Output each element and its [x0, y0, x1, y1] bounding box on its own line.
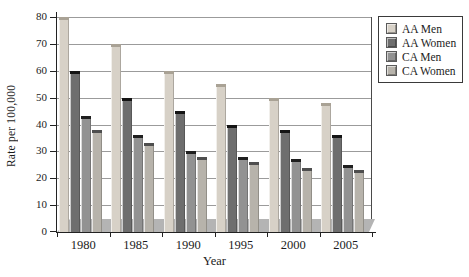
- y-tick: [50, 98, 57, 99]
- bar-aa-men: [321, 103, 331, 232]
- x-tick-label: 1985: [110, 238, 163, 253]
- bar-aa-women: [70, 71, 80, 232]
- bar-aa-men: [269, 98, 279, 232]
- legend-swatch: [386, 51, 397, 62]
- y-tick-label: 80: [21, 10, 47, 23]
- x-tick-label: 2000: [267, 238, 320, 253]
- bar-ca-women: [197, 157, 207, 232]
- bar-group: [321, 17, 364, 232]
- bar-top-face: [321, 103, 331, 106]
- legend-item: CA Men: [386, 50, 458, 63]
- bar-ca-women: [302, 168, 312, 233]
- y-tick: [50, 125, 57, 126]
- bar-aa-women: [122, 98, 132, 232]
- y-tick-label: 30: [21, 144, 47, 157]
- bar-top-face: [164, 71, 174, 74]
- bar-top-face: [291, 159, 301, 162]
- bar-group: [269, 17, 312, 232]
- legend-label: AA Men: [402, 23, 442, 35]
- bar-top-face: [343, 165, 353, 168]
- y-tick: [50, 71, 57, 72]
- bar-group: [216, 17, 259, 232]
- bar-top-face: [354, 170, 364, 173]
- y-tick: [50, 178, 57, 179]
- x-tick: [162, 232, 163, 237]
- y-tick: [50, 44, 57, 45]
- bar-top-face: [197, 157, 207, 160]
- y-tick: [50, 17, 57, 18]
- bar-top-face: [175, 111, 185, 114]
- bar-aa-women: [280, 130, 290, 232]
- bar-ca-men: [81, 116, 91, 232]
- legend-item: AA Women: [386, 36, 458, 49]
- bar-aa-women: [332, 135, 342, 232]
- y-tick-label: 20: [21, 171, 47, 184]
- y-tick: [50, 151, 57, 152]
- bar-aa-men: [59, 17, 69, 232]
- bar-aa-men: [164, 71, 174, 232]
- y-tick-label: 50: [21, 91, 47, 104]
- bar-ca-men: [291, 159, 301, 232]
- bar-top-face: [81, 116, 91, 119]
- legend-label: CA Men: [402, 51, 441, 63]
- x-tick: [267, 232, 268, 237]
- y-tick: [50, 205, 57, 206]
- y-tick-label: 70: [21, 37, 47, 50]
- bar-group: [164, 17, 207, 232]
- legend-item: AA Men: [386, 22, 458, 35]
- x-tick-label: 1990: [162, 238, 215, 253]
- chart-figure: Rate per 100,000 01020304050607080198019…: [0, 0, 469, 277]
- legend-swatch: [386, 65, 397, 76]
- plot-area: 0102030405060708019801985199019952000200…: [57, 17, 372, 232]
- bar-aa-women: [175, 111, 185, 232]
- bar-top-face: [59, 17, 69, 20]
- bar-top-face: [216, 84, 226, 87]
- bar-top-face: [238, 157, 248, 160]
- y-tick: [50, 231, 57, 232]
- bar-ca-women: [92, 130, 102, 232]
- bar-top-face: [92, 130, 102, 133]
- x-tick: [57, 232, 58, 237]
- bar-top-face: [70, 71, 80, 74]
- bar-ca-men: [186, 151, 196, 232]
- bar-top-face: [144, 143, 154, 146]
- x-tick-label: 2005: [320, 238, 373, 253]
- bar-top-face: [186, 151, 196, 154]
- bar-top-face: [122, 98, 132, 101]
- bar-aa-men: [216, 84, 226, 232]
- bar-top-face: [269, 98, 279, 101]
- bar-top-face: [133, 135, 143, 138]
- x-axis-title: Year: [57, 254, 372, 269]
- y-tick-label: 10: [21, 198, 47, 211]
- bar-aa-men: [111, 44, 121, 232]
- bar-top-face: [227, 125, 237, 128]
- y-tick-label: 40: [21, 118, 47, 131]
- bar-ca-women: [249, 162, 259, 232]
- bar-aa-women: [227, 125, 237, 233]
- legend-label: AA Women: [402, 37, 456, 49]
- bar-top-face: [111, 44, 121, 47]
- bar-group: [59, 17, 102, 232]
- x-tick: [372, 232, 373, 237]
- legend-item: CA Women: [386, 64, 458, 77]
- bar-ca-men: [133, 135, 143, 232]
- x-tick: [215, 232, 216, 237]
- x-tick-label: 1995: [215, 238, 268, 253]
- x-tick: [320, 232, 321, 237]
- bar-ca-women: [144, 143, 154, 232]
- bar-ca-women: [354, 170, 364, 232]
- x-tick: [110, 232, 111, 237]
- legend: AA MenAA WomenCA MenCA Women: [378, 16, 463, 83]
- bar-top-face: [280, 130, 290, 133]
- x-tick-label: 1980: [57, 238, 110, 253]
- bar-ca-men: [238, 157, 248, 232]
- legend-swatch: [386, 23, 397, 34]
- legend-label: CA Women: [402, 65, 456, 77]
- x-axis-line: [56, 232, 376, 233]
- bar-top-face: [302, 168, 312, 171]
- bar-ca-men: [343, 165, 353, 232]
- bar-group: [111, 17, 154, 232]
- wall-edge-line: [371, 17, 372, 220]
- bar-top-face: [332, 135, 342, 138]
- y-tick-label: 60: [21, 64, 47, 77]
